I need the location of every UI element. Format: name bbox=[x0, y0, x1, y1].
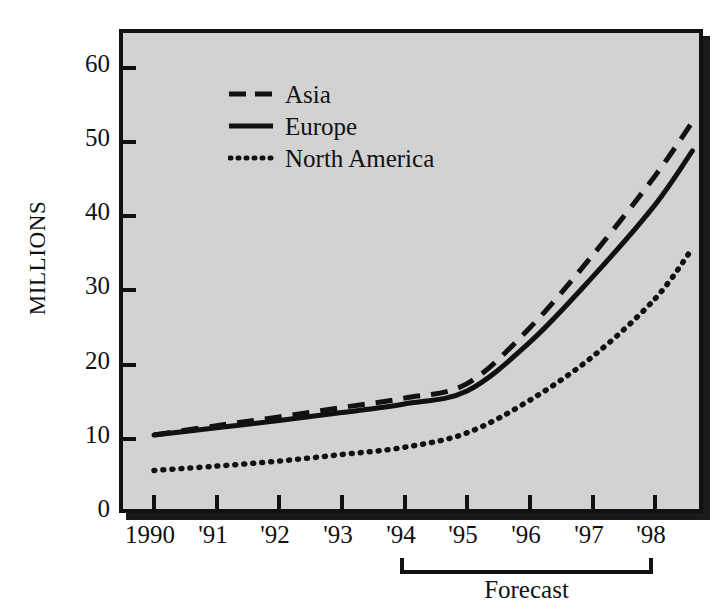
legend-entry-north-america: North America bbox=[228, 142, 434, 174]
forecast-bracket-icon bbox=[400, 558, 653, 574]
y-tick-label-60: 60 bbox=[50, 50, 110, 78]
legend-label-asia: Asia bbox=[285, 82, 331, 107]
x-tick-label-98: '98 bbox=[611, 521, 691, 549]
y-tick-label-40: 40 bbox=[50, 198, 110, 226]
legend-swatch-solid-icon bbox=[228, 119, 274, 133]
forecast-annotation: Forecast bbox=[400, 558, 653, 610]
y-axis-title: MILLIONS bbox=[25, 158, 51, 358]
legend-entry-europe: Europe bbox=[228, 110, 434, 142]
series-line-north-america bbox=[154, 248, 692, 470]
legend-swatch-dashed-icon bbox=[228, 87, 274, 101]
forecast-label: Forecast bbox=[400, 576, 653, 604]
plot-area: Asia Europe North bbox=[119, 29, 703, 513]
legend-label-north-america: North America bbox=[285, 146, 434, 171]
chart-legend: Asia Europe North bbox=[228, 78, 434, 174]
y-tick-label-10: 10 bbox=[50, 421, 110, 449]
y-tick-label-50: 50 bbox=[50, 124, 110, 152]
line-chart-figure: MILLIONS bbox=[0, 0, 728, 613]
y-tick-label-20: 20 bbox=[50, 347, 110, 375]
plot-inner: Asia Europe North bbox=[123, 33, 699, 509]
legend-entry-asia: Asia bbox=[228, 78, 434, 110]
y-tick-label-0: 0 bbox=[50, 495, 110, 523]
series-line-europe bbox=[154, 151, 692, 435]
legend-swatch-dotted-icon bbox=[228, 151, 274, 165]
legend-label-europe: Europe bbox=[285, 114, 357, 139]
y-tick-label-30: 30 bbox=[50, 272, 110, 300]
